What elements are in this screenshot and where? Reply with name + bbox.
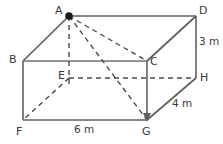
- dimension-label-width: 6 m: [74, 124, 94, 135]
- diagonal-A-G: [69, 16, 147, 120]
- vertex-label-E: E: [58, 70, 65, 81]
- geometry-figure: A D B C E H F G 3 m 4 m 6 m: [0, 0, 223, 144]
- vertex-marker-A: [65, 12, 73, 20]
- dashed-edges-group: [23, 16, 196, 120]
- vertex-label-H: H: [200, 72, 208, 83]
- dimension-label-depth: 4 m: [172, 98, 192, 109]
- vertex-label-B: B: [9, 54, 17, 65]
- vertex-label-D: D: [199, 5, 207, 16]
- vertex-label-G: G: [142, 126, 151, 137]
- prism-diagram: [0, 0, 223, 144]
- edge-E-F: [23, 78, 69, 120]
- diagonal-A-C: [69, 16, 147, 61]
- vertex-label-C: C: [150, 56, 158, 67]
- vertex-label-F: F: [16, 126, 22, 137]
- edge-A-B: [23, 16, 69, 61]
- solid-edges-group: [23, 16, 196, 120]
- vertex-label-A: A: [55, 5, 63, 16]
- dimension-label-height: 3 m: [199, 36, 219, 47]
